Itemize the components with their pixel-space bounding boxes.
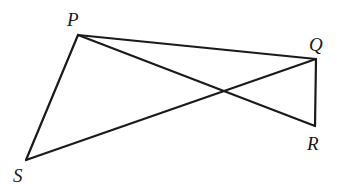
geometry-diagram: P Q R S (0, 0, 347, 184)
segment-PS (26, 35, 78, 160)
segments (26, 35, 316, 160)
segment-PQ (78, 35, 316, 59)
segment-PR (78, 35, 315, 126)
label-R: R (306, 133, 319, 154)
point-labels: P Q R S (13, 9, 323, 184)
label-P: P (66, 9, 79, 30)
label-S: S (13, 165, 23, 184)
label-Q: Q (309, 34, 323, 55)
segment-QR (315, 59, 316, 126)
